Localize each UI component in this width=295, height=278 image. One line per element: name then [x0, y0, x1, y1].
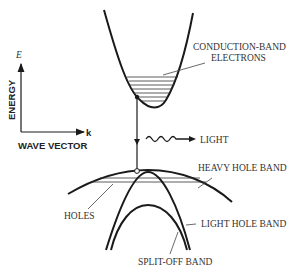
conduction-pointer — [163, 63, 205, 75]
hole-circle — [135, 169, 140, 174]
split-off-band-curve — [111, 205, 187, 250]
conduction-label-line1: CONDUCTION-BAND — [193, 42, 286, 52]
k-symbol: k — [86, 127, 92, 138]
electron-dot — [135, 95, 139, 99]
split-off-pointer — [170, 232, 178, 254]
light-arrow-icon — [189, 136, 196, 142]
heavy-hole-band-curve — [68, 170, 232, 202]
energy-symbol: E — [15, 50, 22, 60]
axes: E ENERGY k WAVE VECTOR — [6, 50, 92, 151]
band-structure-diagram: E ENERGY k WAVE VECTOR CONDUCTION-BAND E… — [0, 0, 295, 278]
light-hole-pointer — [186, 224, 196, 225]
energy-axis-label: ENERGY — [6, 79, 17, 120]
light-wave-icon — [146, 137, 190, 142]
valence-bands: HEAVY HOLE BAND HOLES LIGHT HOLE BAND SP… — [64, 163, 287, 267]
holes-label: HOLES — [64, 211, 95, 221]
transition-arrow-icon — [134, 139, 140, 145]
conduction-band: CONDUCTION-BAND ELECTRONS — [104, 10, 286, 108]
split-off-label: SPLIT-OFF BAND — [138, 257, 212, 267]
light-label: LIGHT — [200, 135, 229, 145]
electron-fill-lines — [127, 77, 178, 101]
light-hole-label: LIGHT HOLE BAND — [201, 219, 286, 229]
wave-vector-label: WAVE VECTOR — [18, 140, 87, 151]
conduction-label-line2: ELECTRONS — [211, 53, 266, 63]
light-hole-band-curve — [106, 172, 190, 250]
heavy-hole-label: HEAVY HOLE BAND — [198, 163, 287, 173]
holes-pointer — [88, 184, 113, 209]
recombination-transition: LIGHT — [134, 99, 229, 170]
